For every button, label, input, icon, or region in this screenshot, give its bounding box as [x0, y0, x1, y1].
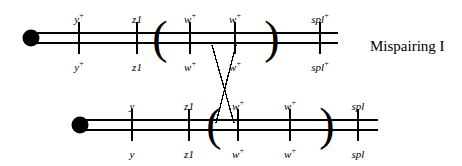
w-plus-upper-2-label-top: w+ [229, 14, 241, 25]
z1-upper-label-top: z1 [132, 14, 142, 25]
duplication-close-paren-lower: ) [319, 102, 334, 148]
w-plus-lower-1-label-top: w+ [232, 101, 244, 112]
w-plus-upper-2-label-bottom: w+ [229, 62, 241, 73]
y-plus-upper-label-top: y+ [74, 14, 83, 25]
spl-lower-label-bottom: spl [352, 149, 365, 160]
y-lower-label-top: y [130, 101, 135, 112]
w-plus-lower-2-label-bottom: w+ [284, 149, 296, 160]
z1-lower-label-bottom: z1 [184, 149, 194, 160]
w-plus-lower-1-label-bottom: w+ [232, 149, 244, 160]
duplication-close-paren-upper: ) [264, 15, 279, 61]
w-plus-upper-1-label-bottom: w+ [184, 62, 196, 73]
spl-lower-label-top: spl [352, 101, 365, 112]
spl-plus-upper-label-bottom: spl+ [311, 62, 328, 73]
lower-centromere [72, 117, 89, 134]
w-plus-upper-1-label-top: w+ [184, 14, 196, 25]
w-plus-lower-2-label-top: w+ [284, 101, 296, 112]
spl-plus-upper-label-top: spl+ [311, 14, 328, 25]
figure-canvas: y+y+z1z1w+w+w+w+spl+spl+yyz1z1w+w+w+w+sp… [0, 0, 462, 166]
y-plus-upper-label-bottom: y+ [74, 62, 83, 73]
upper-centromere [23, 30, 40, 47]
figure-caption: Mispairing I [370, 38, 445, 55]
y-lower-label-bottom: y [130, 149, 135, 160]
duplication-open-paren-upper: ( [152, 15, 167, 61]
z1-upper-label-bottom: z1 [132, 62, 142, 73]
z1-lower-label-top: z1 [184, 101, 194, 112]
duplication-open-paren-lower: ( [206, 102, 221, 148]
